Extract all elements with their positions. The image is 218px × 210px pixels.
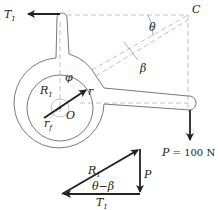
lever-body	[14, 13, 196, 148]
label-P-load: P = 100 N	[161, 146, 215, 159]
construction-lines	[50, 15, 188, 118]
label-phi: φ	[65, 71, 73, 84]
label-tri-angle: θ−β	[92, 180, 114, 193]
label-C: C	[192, 3, 201, 16]
label-T1: T1	[4, 8, 16, 23]
label-tri-R1: R1	[87, 164, 101, 179]
label-tri-T1: T1	[96, 196, 108, 210]
lever-diagram: T1 C θ β φ R1 r rf O P = 100 N R1 P θ−β …	[0, 0, 218, 210]
label-O: O	[66, 109, 75, 122]
label-R1: R1	[39, 84, 53, 99]
label-beta: β	[139, 62, 146, 75]
label-tri-P: P	[143, 168, 152, 181]
label-rf: rf	[44, 117, 53, 132]
label-r: r	[88, 85, 94, 98]
label-theta: θ	[149, 21, 156, 34]
